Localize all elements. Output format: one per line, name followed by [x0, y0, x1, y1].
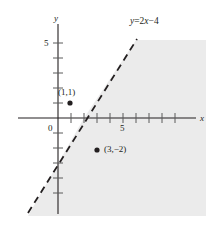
inequality-shading — [28, 40, 206, 216]
point-label-1-1: (1,1) — [58, 88, 75, 97]
point-label-3-neg2: (3,−2) — [104, 145, 126, 154]
y-tick-label-5: 5 — [44, 39, 49, 48]
origin-label: 0 — [48, 124, 53, 133]
y-axis-label: y — [54, 14, 58, 23]
data-point-3-neg2 — [94, 147, 99, 152]
graph-figure: y x 5 5 0 (1,1) (3,−2) y=2x−4 — [0, 0, 220, 225]
coordinate-plane-svg — [0, 0, 220, 225]
shaded-region — [28, 40, 206, 216]
equation-label: y=2x−4 — [130, 17, 159, 27]
x-tick-label-5: 5 — [120, 124, 125, 133]
x-axis-label: x — [200, 114, 204, 123]
data-point-1-1 — [67, 100, 72, 105]
equation-constant: 4 — [154, 16, 159, 26]
